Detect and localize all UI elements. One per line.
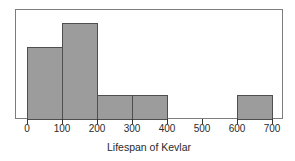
histogram-bar-100-200 [62,23,98,120]
chart-canvas: 0100200300400500600700 Lifespan of Kevla… [0,0,295,161]
histogram-bar-0-100 [27,47,63,120]
x-tick-label-0: 0 [12,123,42,135]
x-tick-label-200: 200 [82,123,112,135]
x-tick-label-300: 300 [117,123,147,135]
x-tick-label-700: 700 [257,123,287,135]
x-axis-title: Lifespan of Kevlar [15,141,283,154]
histogram-bar-300-400 [132,95,168,120]
x-tick-label-400: 400 [152,123,182,135]
x-tick-label-600: 600 [222,123,252,135]
histogram-bar-600-700 [237,95,273,120]
histogram-bar-200-300 [97,95,133,120]
x-tick-label-100: 100 [47,123,77,135]
x-tick-label-500: 500 [187,123,217,135]
